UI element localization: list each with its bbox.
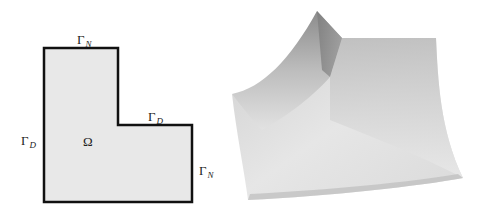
- gamma-symbol: Γ: [148, 109, 156, 124]
- label-gamma-d-left: ΓD: [21, 134, 36, 147]
- gamma-symbol: Γ: [77, 32, 85, 47]
- label-gamma-n-top: ΓN: [77, 33, 92, 46]
- gamma-subscript: N: [86, 39, 92, 49]
- gamma-symbol: Γ: [199, 163, 207, 178]
- l-shaped-domain: [44, 48, 192, 202]
- label-omega: Ω: [83, 135, 93, 148]
- gamma-subscript: D: [30, 140, 37, 150]
- figure: ΓN ΓD ΓD ΓN Ω: [0, 0, 489, 215]
- gamma-subscript: N: [208, 170, 214, 180]
- gamma-subscript: D: [157, 116, 164, 126]
- figure-graphics: [0, 0, 489, 215]
- label-gamma-d-inner: ΓD: [148, 110, 163, 123]
- domain-omega: [44, 48, 192, 202]
- label-gamma-n-right: ΓN: [199, 164, 214, 177]
- surface-plot: [232, 11, 463, 200]
- gamma-symbol: Γ: [21, 133, 29, 148]
